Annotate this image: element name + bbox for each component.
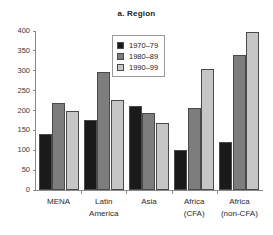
x-axis-label: Africa(non-CFA) <box>217 196 262 219</box>
bar <box>129 106 142 190</box>
bar <box>246 32 259 190</box>
x-axis-line <box>35 190 263 191</box>
bar-group <box>36 31 81 190</box>
bar <box>111 100 124 190</box>
y-axis-tick-label: 350 <box>17 46 30 55</box>
y-axis-tick-label: 50 <box>22 165 30 174</box>
x-axis-label: Africa(CFA) <box>172 196 217 219</box>
chart-title: a. Region <box>0 9 273 18</box>
bar <box>201 69 214 190</box>
x-axis-labels: MENALatinAmericaAsiaAfrica(CFA)Africa(no… <box>36 196 262 232</box>
x-axis-separator-tick <box>126 190 127 194</box>
legend-label: 1990–99 <box>129 63 158 72</box>
bar <box>97 72 110 190</box>
x-axis-label-line: Latin <box>81 196 126 208</box>
x-axis-label-line: Africa <box>172 196 217 208</box>
bar <box>188 108 201 190</box>
bar <box>219 142 232 190</box>
legend-swatch-icon <box>117 42 124 49</box>
legend-item: 1970–79 <box>117 40 158 50</box>
x-axis-label-line: Africa <box>217 196 262 208</box>
legend-item: 1990–99 <box>117 62 158 72</box>
y-axis-tick-label: 400 <box>17 26 30 35</box>
bar <box>66 111 79 191</box>
bar <box>233 55 246 190</box>
legend-label: 1980–89 <box>129 52 158 61</box>
bar <box>174 150 187 190</box>
y-axis-tick-label: 250 <box>17 86 30 95</box>
x-axis-separator-tick <box>172 190 173 194</box>
bar-group <box>217 31 262 190</box>
x-axis-label-line: MENA <box>36 196 81 208</box>
y-axis-tick-label: 0 <box>26 185 30 194</box>
y-axis-tick-label: 100 <box>17 145 30 154</box>
x-axis-separator-tick <box>217 190 218 194</box>
bar <box>39 134 52 190</box>
bar <box>84 120 97 190</box>
x-axis-label: Asia <box>126 196 171 208</box>
legend-label: 1970–79 <box>129 41 158 50</box>
x-axis-separator-tick <box>81 190 82 194</box>
chart-legend: 1970–791980–891990–99 <box>112 35 165 77</box>
x-axis-label: MENA <box>36 196 81 208</box>
bar-chart: a. Region 050100150200250300350400 MENAL… <box>0 0 273 235</box>
legend-item: 1980–89 <box>117 51 158 61</box>
bar-group <box>172 31 217 190</box>
legend-swatch-icon <box>117 53 124 60</box>
y-axis-tick-label: 150 <box>17 125 30 134</box>
bar <box>156 123 169 190</box>
x-axis-label-line: (CFA) <box>172 208 217 220</box>
y-axis-tick-label: 200 <box>17 106 30 115</box>
y-axis-tick-label: 300 <box>17 66 30 75</box>
bar <box>52 103 65 190</box>
x-axis-label-line: America <box>81 208 126 220</box>
legend-swatch-icon <box>117 64 124 71</box>
x-axis-label: LatinAmerica <box>81 196 126 219</box>
x-axis-label-line: Asia <box>126 196 171 208</box>
x-axis-label-line: (non-CFA) <box>217 208 262 220</box>
bar <box>142 113 155 190</box>
